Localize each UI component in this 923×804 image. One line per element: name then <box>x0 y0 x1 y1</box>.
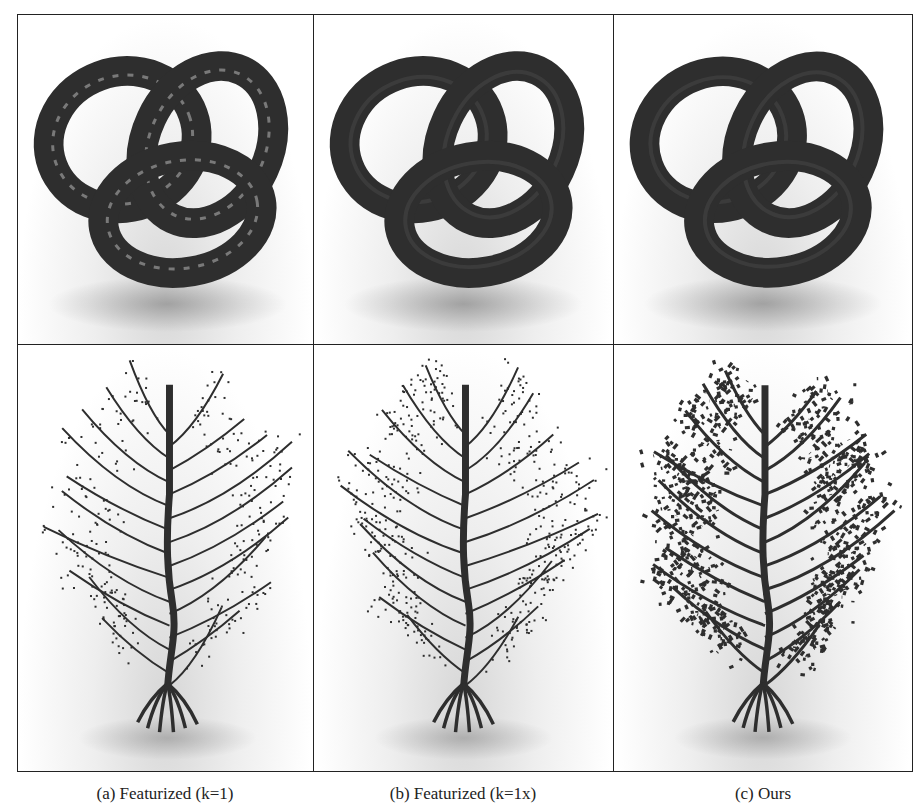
knot-render-c <box>614 15 912 344</box>
tree-render-c <box>614 345 912 771</box>
caption-a: (a) Featurized (k=1) <box>17 784 313 804</box>
panel-knot-c <box>614 15 912 345</box>
caption-c: (c) Ours <box>613 784 913 804</box>
panel-knot-b <box>314 15 614 345</box>
tree-render-a <box>18 345 313 771</box>
panel-tree-b <box>314 345 614 771</box>
panel-tree-c <box>614 345 912 771</box>
knot-render-a <box>18 15 313 344</box>
figure-captions: (a) Featurized (k=1) (b) Featurized (k=1… <box>17 784 913 804</box>
tree-render-b <box>314 345 613 771</box>
figure-grid <box>17 14 913 772</box>
panel-knot-a <box>18 15 314 345</box>
caption-b: (b) Featurized (k=1x) <box>313 784 613 804</box>
panel-tree-a <box>18 345 314 771</box>
knot-render-b <box>314 15 613 344</box>
